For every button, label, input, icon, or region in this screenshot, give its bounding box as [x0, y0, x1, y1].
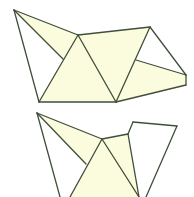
edge-line	[128, 122, 133, 134]
unfolded-net-bottom	[37, 113, 177, 197]
diagram-canvas	[0, 0, 194, 197]
edge-line	[146, 126, 177, 197]
unfolded-net-top	[14, 10, 186, 102]
edge-line	[133, 122, 177, 126]
